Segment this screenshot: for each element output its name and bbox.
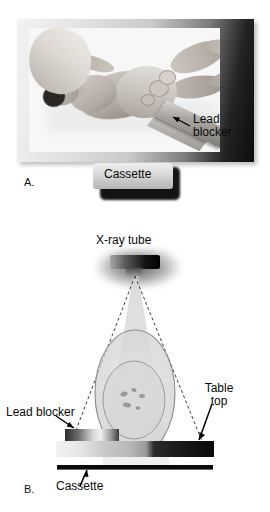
- table-top-bar: [56, 441, 214, 457]
- panel-letter-a: A.: [24, 176, 34, 188]
- cassette-label-a: Cassette: [104, 168, 151, 180]
- lead-blocker-label-a-line1: Lead: [193, 112, 220, 126]
- panel-a: Leadblocker Cassette A.: [0, 0, 270, 200]
- table-top-arrow: [199, 404, 212, 440]
- lead-blocker-label-b: Lead blocker: [6, 406, 75, 418]
- cassette-bar-edge: [57, 469, 213, 470]
- radiography-figure: Leadblocker Cassette A. X-ray tube: [0, 0, 270, 512]
- lead-blocker-label-a: Leadblocker: [193, 113, 232, 139]
- table-top-label-line1: Table: [205, 381, 234, 395]
- pelvic-ring-cross-section: [103, 361, 165, 439]
- panel-b: X-ray tube: [0, 200, 270, 512]
- lead-blocker-arrow-a: [173, 117, 190, 126]
- table-top-label: Tabletop: [192, 382, 246, 408]
- panel-letter-b: B.: [24, 483, 34, 495]
- lead-blocker-label-a-line2: blocker: [193, 125, 232, 139]
- cassette-label-b: Cassette: [56, 480, 103, 492]
- table-top-label-line2: top: [211, 394, 228, 408]
- lead-blocker-slab: [65, 429, 119, 441]
